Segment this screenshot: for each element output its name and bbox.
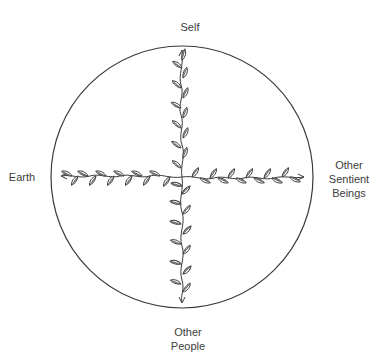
- vine-down-other-people: [170, 177, 193, 303]
- label-sentient-line-3: Beings: [322, 186, 376, 200]
- vine-cross-circle-diagram: [0, 0, 377, 358]
- vine-right-other-sentient-beings: [182, 167, 304, 185]
- label-self-text: Self: [181, 21, 200, 33]
- label-other-sentient-beings: Other Sentient Beings: [322, 158, 376, 200]
- label-sentient-line-1: Other: [322, 158, 376, 172]
- label-earth: Earth: [2, 170, 42, 184]
- label-sentient-line-2: Sentient: [322, 172, 376, 186]
- label-earth-text: Earth: [9, 171, 35, 183]
- vine-up-self: [171, 49, 191, 177]
- vine-left-earth: [61, 168, 182, 186]
- label-other-people: Other People: [158, 325, 218, 353]
- label-people-line-1: Other: [158, 325, 218, 339]
- label-self: Self: [160, 20, 220, 34]
- label-people-line-2: People: [158, 339, 218, 353]
